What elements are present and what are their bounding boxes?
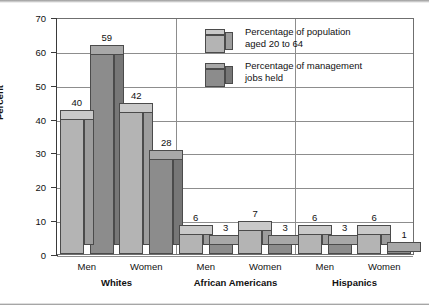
bar-value-label: 42	[131, 90, 142, 101]
y-axis-tick	[51, 86, 57, 87]
bar	[149, 159, 173, 254]
bar-front-face	[149, 159, 173, 254]
legend-label-line2: jobs held	[245, 72, 362, 84]
y-axis-tick	[51, 18, 57, 19]
bar-value-label: 7	[253, 208, 258, 219]
bar-value-label: 28	[161, 137, 172, 148]
y-axis-tick	[51, 120, 57, 121]
plot-area: 4059422863736361 Percentage of populatio…	[57, 18, 414, 255]
bar-front-face	[119, 112, 143, 254]
legend-swatch-series1	[205, 29, 233, 53]
legend-swatch-side	[225, 32, 233, 50]
y-axis-tick-label: 60	[22, 46, 46, 57]
bar-value-label: 3	[223, 222, 228, 233]
chart-figure: Percent 4059422863736361 Percentage of p…	[0, 0, 429, 306]
bar-front-face	[357, 234, 381, 254]
y-axis-tick-label: 40	[22, 114, 46, 125]
bar-front-face	[60, 119, 84, 254]
legend-item: Percentage of population aged 20 to 64	[205, 25, 411, 59]
page-top-edge	[0, 0, 429, 3]
group-label: Hispanics	[332, 277, 377, 288]
y-axis-tick	[51, 221, 57, 222]
bar	[387, 251, 411, 254]
category-label: Women	[130, 261, 163, 272]
bar-value-label: 1	[402, 229, 407, 240]
bar-value-label: 3	[342, 222, 347, 233]
bar-value-label: 3	[283, 222, 288, 233]
bar	[209, 244, 233, 254]
bar	[328, 244, 352, 254]
bar-front-face	[298, 234, 322, 254]
bar	[357, 234, 381, 254]
group-label: Whites	[101, 277, 132, 288]
y-axis-tick-label: 50	[22, 80, 46, 91]
legend-swatch-face	[205, 35, 225, 53]
legend-label-series2: Percentage of management jobs held	[245, 60, 362, 83]
y-axis-tick	[51, 187, 57, 188]
bar-front-face	[268, 244, 292, 254]
chart-legend: Percentage of population aged 20 to 64 P…	[205, 25, 411, 93]
bar	[268, 244, 292, 254]
y-axis-tick	[51, 255, 57, 256]
bar	[238, 230, 262, 254]
bar-side-face	[84, 110, 94, 245]
y-axis-tick	[51, 52, 57, 53]
y-axis-tick-label: 20	[22, 182, 46, 193]
legend-swatch-series2	[205, 63, 233, 87]
y-axis-tick-label: 10	[22, 216, 46, 227]
y-axis-tick-label: 30	[22, 148, 46, 159]
bar-front-face	[328, 244, 352, 254]
legend-swatch-face	[205, 69, 225, 87]
bar	[298, 234, 322, 254]
legend-label-line1: Percentage of management	[245, 60, 362, 72]
gridline	[57, 256, 413, 257]
category-label: Women	[249, 261, 282, 272]
bar-front-face	[179, 234, 203, 254]
bar	[179, 234, 203, 254]
bar-front-face	[209, 244, 233, 254]
bar-front-face	[387, 251, 411, 254]
legend-label-line1: Percentage of population	[245, 26, 351, 38]
y-axis-title: Percent	[0, 85, 5, 120]
bar-value-label: 40	[71, 97, 82, 108]
group-label: African Americans	[194, 277, 278, 288]
y-axis-tick-label: 70	[22, 13, 46, 24]
page-bottom-edge	[0, 303, 429, 305]
bar-value-label: 6	[372, 212, 377, 223]
bar	[60, 119, 84, 254]
legend-swatch-side	[225, 66, 233, 84]
category-label: Men	[316, 261, 334, 272]
category-label: Men	[78, 261, 96, 272]
legend-label-series1: Percentage of population aged 20 to 64	[245, 26, 351, 49]
category-label: Women	[368, 261, 401, 272]
bar	[119, 112, 143, 254]
bar-value-label: 59	[101, 32, 112, 43]
bar-front-face	[238, 230, 262, 254]
legend-item: Percentage of management jobs held	[205, 59, 411, 93]
bar-value-label: 6	[193, 212, 198, 223]
y-axis-tick	[51, 153, 57, 154]
category-label: Men	[197, 261, 215, 272]
legend-label-line2: aged 20 to 64	[245, 38, 351, 50]
bar-value-label: 6	[312, 212, 317, 223]
y-axis-tick-label: 0	[22, 250, 46, 261]
